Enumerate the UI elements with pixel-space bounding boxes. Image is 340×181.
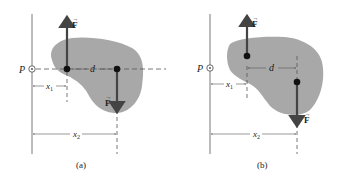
panel-b: P F → F → d x1 x2 (b): [196, 14, 323, 170]
vector-hat: →: [106, 94, 112, 100]
panel-a: P F → F → d x1 x2 (a): [18, 14, 166, 170]
rigid-body-shape: [51, 37, 143, 113]
rigid-body-shape: [227, 37, 323, 115]
vector-hat: →: [253, 15, 259, 21]
x2-label: x2: [252, 129, 260, 140]
vector-hat: →: [305, 111, 311, 117]
point-p-label: P: [18, 64, 25, 75]
application-point-2: [114, 66, 121, 73]
application-point-1: [244, 53, 251, 60]
couple-moment-diagram: P F → F → d x1 x2 (a) P: [0, 0, 340, 181]
x1-label: x1: [225, 79, 233, 90]
caption-b: (b): [257, 160, 268, 170]
application-point-1: [64, 66, 71, 73]
caption-a: (a): [76, 160, 86, 170]
point-p-label: P: [196, 63, 203, 74]
x2-label: x2: [72, 129, 80, 140]
application-point-2: [294, 79, 301, 86]
x1-label: x1: [45, 81, 53, 92]
vector-hat: →: [73, 16, 79, 22]
